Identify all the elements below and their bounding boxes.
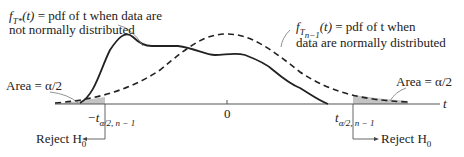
zero-label: 0: [224, 107, 231, 121]
nonnormal-pdf-curve: [80, 34, 328, 104]
reject-right-label: Reject H0: [381, 132, 431, 151]
normal-label-line2: data are normally distributed: [296, 36, 446, 50]
right-critical-value: tα/2, n − 1: [335, 111, 374, 130]
reject-left-label: Reject H0: [36, 132, 86, 151]
right-arrowhead-icon: [374, 137, 379, 141]
right-tail-shade: [353, 95, 408, 104]
left-critical-value: −tα/2, n − 1: [87, 111, 135, 130]
leader-normal: [281, 30, 290, 47]
axis-variable-label: t: [443, 97, 447, 111]
area-left-label: Area = α/2: [6, 79, 62, 93]
leader-area-right: [390, 88, 406, 101]
nonnormal-label-line2: not normally distributed: [9, 23, 135, 37]
area-right-label: Area = α/2: [396, 75, 452, 89]
leader-area-left: [50, 92, 78, 103]
